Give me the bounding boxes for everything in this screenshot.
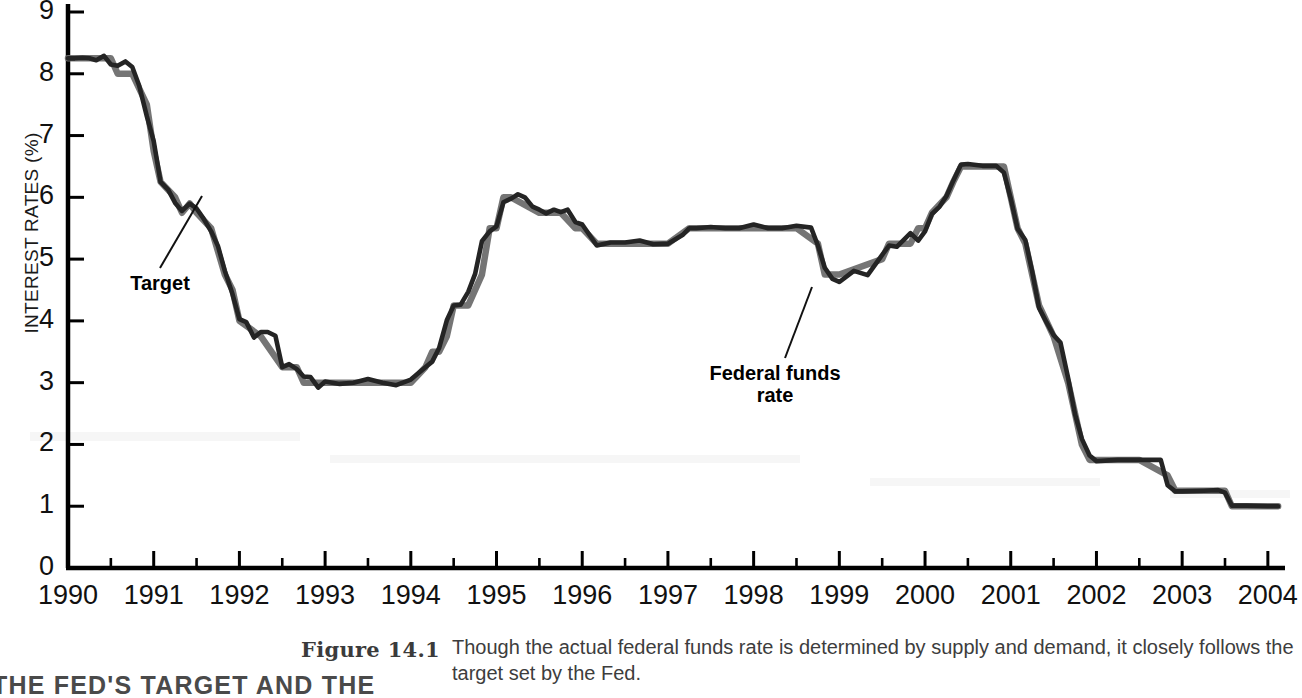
figure-caption-text: Though the actual federal funds rate is … [452,634,1297,687]
y-tick-label: 2 [20,429,54,456]
figure-caption-area: Figure 14.1 THE FED'S TARGET AND THE Tho… [0,628,1302,684]
y-tick-label: 6 [20,182,54,209]
figure-number: Figure 14.1 [100,637,440,662]
y-tick-label: 3 [20,368,54,395]
figure-heading: THE FED'S TARGET AND THE [0,671,442,698]
annotation-line-2: rate [690,384,860,406]
annotation-line-1: Federal funds [690,362,860,384]
data-series [68,56,1278,506]
axis-ticks [68,12,1268,568]
y-tick-label: 0 [20,553,54,580]
y-tick-label: 8 [20,59,54,86]
y-tick-label: 5 [20,244,54,271]
axis-lines [66,4,1285,568]
annotation-target-label: Target [105,272,215,294]
y-tick-label: 4 [20,306,54,333]
chart-plot-area [0,0,1302,620]
y-tick-label: 1 [20,491,54,518]
x-tick-label: 2004 [1218,582,1302,609]
y-tick-label: 7 [20,121,54,148]
annotation-federal-funds-rate-label: Federal funds rate [690,362,860,407]
y-tick-label: 9 [20,0,54,24]
